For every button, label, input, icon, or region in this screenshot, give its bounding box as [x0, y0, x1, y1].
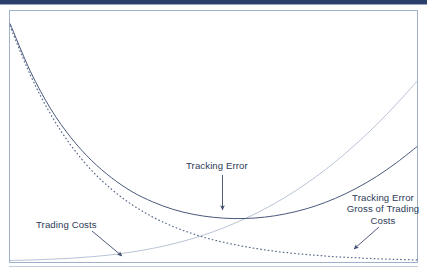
annotation-label-tracking-error-gross: Tracking Error Gross of Trading Costs [343, 192, 423, 226]
figure-root: Tracking Error Trading Costs Tracking Er… [0, 0, 427, 278]
annotation-label-trading-costs: Trading Costs [36, 219, 97, 230]
annotation-label-tracking-error: Tracking Error [186, 160, 248, 171]
annotation-arrows [92, 175, 379, 256]
chart-canvas [0, 0, 427, 278]
bottom-rule [9, 266, 418, 267]
trading-costs-arrow-icon [92, 231, 122, 256]
curve-tracking-error [10, 24, 417, 219]
tracking-error-gross-arrow-icon [354, 227, 379, 249]
